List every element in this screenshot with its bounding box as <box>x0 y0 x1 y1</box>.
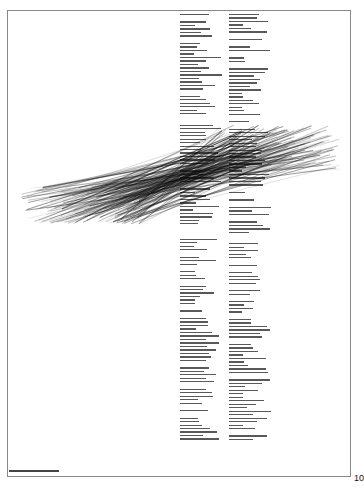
text-column-right <box>229 14 271 442</box>
page-number: 10 <box>354 473 364 483</box>
document-page <box>7 10 351 477</box>
footer-text <box>9 470 59 472</box>
text-column-left <box>180 14 222 442</box>
